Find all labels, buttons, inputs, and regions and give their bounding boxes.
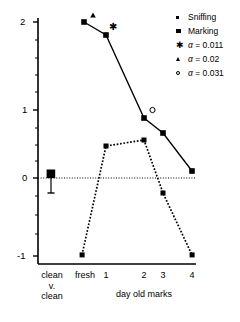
control-group-label: clean v. clean [31,270,73,302]
chart-legend: Sniffing Marking ✱ α = 0.011 α = 0.02 α … [176,10,240,80]
y-tick-label-2: 2 [20,17,25,26]
open-circle-icon [176,71,188,75]
x-tick-label-fresh: fresh [68,270,102,280]
y-tick-label-0: 0 [22,173,27,182]
triangle-icon [176,57,188,61]
x-tick-label-2: 2 [137,270,151,280]
legend-item-alpha-0031: α = 0.031 [176,66,240,80]
series-marking-line [82,140,192,255]
legend-label-sniffing: Sniffing [188,13,216,22]
significance-triangle-icon [90,13,96,18]
significance-star-icon: ✱ [109,21,117,32]
legend-label-alpha-0031: α = 0.031 [188,69,224,78]
alpha-symbol: α [188,40,193,50]
legend-item-alpha-002: α = 0.02 [176,52,240,66]
legend-label-alpha-002: α = 0.02 [188,55,219,64]
alpha-value: = 0.011 [195,40,223,50]
legend-item-sniffing: Sniffing [176,10,240,24]
x-tick-label-3: 3 [156,270,170,280]
legend-item-marking: Marking [176,24,240,38]
star-icon: ✱ [176,42,188,48]
alpha-symbol: α [188,54,193,64]
y-tick-label-neg1: -1 [17,251,25,260]
significance-open-circle-icon [150,107,155,112]
series-marking-markers [80,138,195,258]
large-square-icon [176,29,188,34]
control-label-line-3: clean [31,291,73,302]
legend-label-marking: Marking [188,27,218,36]
x-tick-label-4: 4 [185,270,199,280]
small-square-icon [176,16,188,19]
control-label-line-2: v. [31,281,73,292]
x-tick-label-1: 1 [99,270,113,280]
alpha-value: = 0.02 [195,54,219,64]
control-label-line-1: clean [31,270,73,281]
alpha-symbol: α [188,68,193,78]
legend-label-alpha-0011: α = 0.011 [188,41,223,50]
legend-item-alpha-0011: ✱ α = 0.011 [176,38,240,52]
x-axis-title: day old marks [116,289,172,299]
alpha-value: = 0.031 [195,68,224,78]
control-point-errorbar [47,170,56,194]
y-tick-label-1: 1 [22,105,27,114]
